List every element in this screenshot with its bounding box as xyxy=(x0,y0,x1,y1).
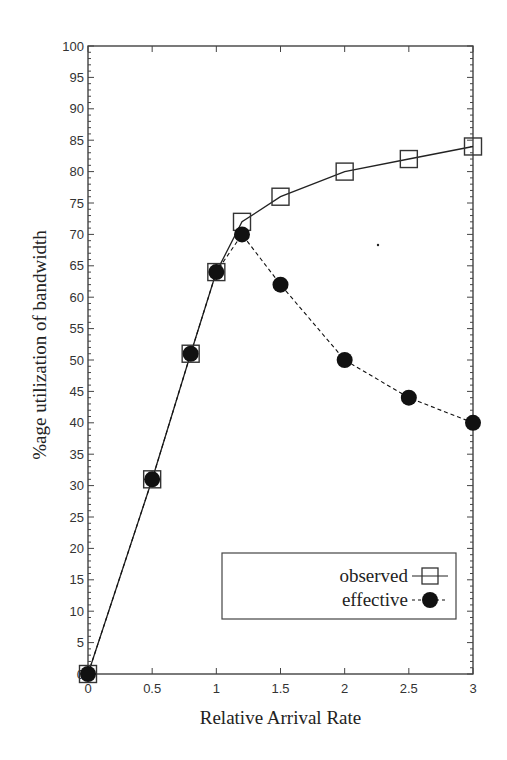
y-tick-label: 45 xyxy=(70,384,84,399)
y-tick-label: 25 xyxy=(70,510,84,525)
data-point-effective xyxy=(337,352,353,368)
data-point-effective xyxy=(234,226,250,242)
x-axis-title: Relative Arrival Rate xyxy=(200,707,361,728)
y-axis-title: %age utilization of bandwidth xyxy=(29,230,50,460)
legend-label-observed: observed xyxy=(339,565,408,586)
legend: observedeffective xyxy=(222,553,456,619)
y-tick-label: 20 xyxy=(70,541,84,556)
data-point-effective xyxy=(144,471,160,487)
data-point-effective xyxy=(273,277,289,293)
y-tick-label: 40 xyxy=(70,415,84,430)
scan-artifact-dot xyxy=(377,244,379,246)
y-tick-label: 60 xyxy=(70,290,84,305)
y-tick-label: 55 xyxy=(70,321,84,336)
y-tick-label: 30 xyxy=(70,478,84,493)
y-tick-label: 50 xyxy=(70,353,84,368)
legend-marker-effective xyxy=(422,592,438,608)
y-tick-label: 90 xyxy=(70,101,84,116)
y-tick-label: 10 xyxy=(70,604,84,619)
y-tick-label: 85 xyxy=(70,133,84,148)
y-tick-label: 70 xyxy=(70,227,84,242)
y-tick-label: 15 xyxy=(70,572,84,587)
legend-box xyxy=(222,553,456,619)
data-point-effective xyxy=(401,390,417,406)
data-point-effective xyxy=(208,264,224,280)
x-tick-label: 0 xyxy=(84,681,91,696)
data-point-effective xyxy=(465,415,481,431)
y-tick-label: 5 xyxy=(77,635,84,650)
y-tick-label: 80 xyxy=(70,164,84,179)
y-tick-label: 65 xyxy=(70,258,84,273)
x-tick-label: 2 xyxy=(341,681,348,696)
y-tick-label: 75 xyxy=(70,196,84,211)
x-tick-label: 1 xyxy=(213,681,220,696)
data-point-effective xyxy=(80,666,96,682)
y-tick-label: 35 xyxy=(70,447,84,462)
legend-label-effective: effective xyxy=(342,589,408,610)
x-tick-label: 2.5 xyxy=(400,681,418,696)
data-point-effective xyxy=(183,346,199,362)
y-tick-label: 100 xyxy=(62,39,84,54)
x-tick-label: 0.5 xyxy=(143,681,161,696)
x-tick-label: 1.5 xyxy=(271,681,289,696)
y-tick-label: 95 xyxy=(70,70,84,85)
line-chart: 0510152025303540455055606570758085909510… xyxy=(0,0,507,760)
x-tick-label: 3 xyxy=(469,681,476,696)
